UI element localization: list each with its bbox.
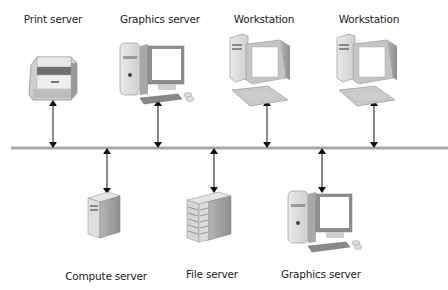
connector-arrows-top: [53, 103, 374, 145]
desktop-tower-monitor-icon: [120, 43, 194, 104]
label-workstation-2: Workstation: [339, 13, 400, 25]
label-compute-server: Compute server: [65, 270, 147, 282]
tower-server-icon: [88, 192, 120, 238]
label-print-server: Print server: [24, 13, 82, 25]
workstation-icon: [230, 34, 290, 106]
network-diagram-canvas: [0, 0, 448, 290]
label-graphics-server-bottom: Graphics server: [281, 268, 361, 280]
label-graphics-server-top: Graphics server: [120, 13, 200, 25]
rack-server-icon: [187, 192, 231, 242]
desktop-tower-monitor-icon: [288, 191, 362, 252]
workstation-icon: [337, 34, 397, 106]
label-workstation-1: Workstation: [234, 13, 295, 25]
printer-icon: [29, 57, 77, 100]
connector-arrows-bottom: [107, 151, 322, 191]
label-file-server: File server: [186, 268, 238, 280]
